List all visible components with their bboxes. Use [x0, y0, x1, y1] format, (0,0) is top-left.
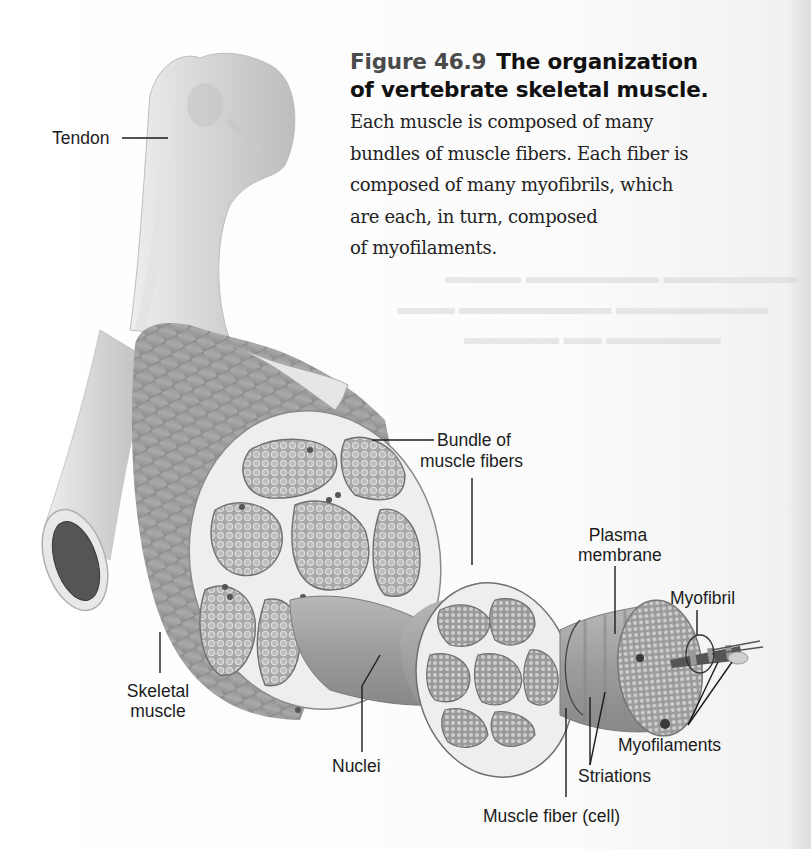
label-nuclei: Nuclei [332, 756, 381, 776]
label-plasma-line2: membrane [578, 545, 658, 565]
figure-number: Figure 46.9 [350, 49, 486, 74]
figure-body-line: are each, in turn, composed [350, 201, 790, 233]
figure-body-line: Each muscle is composed of many [350, 106, 790, 138]
label-skeletal-line1: Skeletal [116, 681, 200, 701]
figure-title-text: The organization [496, 49, 698, 74]
figure-body: Each muscle is composed of many bundles … [350, 106, 790, 264]
figure-title: Figure 46.9The organization [350, 48, 790, 76]
figure-body-line: of myofilaments. [350, 232, 790, 264]
label-skeletal-muscle: Skeletal muscle [116, 681, 200, 721]
figure-title-line2: of vertebrate skeletal muscle. [350, 76, 790, 104]
label-bundle-line2: muscle fibers [420, 451, 523, 471]
label-plasma-membrane: Plasma membrane [578, 525, 658, 565]
label-skeletal-line2: muscle [116, 701, 200, 721]
label-plasma-line1: Plasma [578, 525, 658, 545]
label-striations: Striations [578, 766, 651, 786]
label-bundle-line1: Bundle of [437, 430, 511, 450]
figure-body-line: bundles of muscle fibers. Each fiber is [350, 138, 790, 170]
label-tendon: Tendon [52, 128, 109, 148]
figure-caption: Figure 46.9The organization of vertebrat… [350, 48, 790, 264]
label-muscle-fiber-cell: Muscle fiber (cell) [483, 806, 620, 826]
label-myofibril: Myofibril [670, 588, 735, 608]
label-myofilaments: Myofilaments [618, 735, 721, 755]
figure-body-line: composed of many myofibrils, which [350, 169, 790, 201]
label-bundle-of-muscle-fibers: Bundle of [437, 430, 511, 450]
